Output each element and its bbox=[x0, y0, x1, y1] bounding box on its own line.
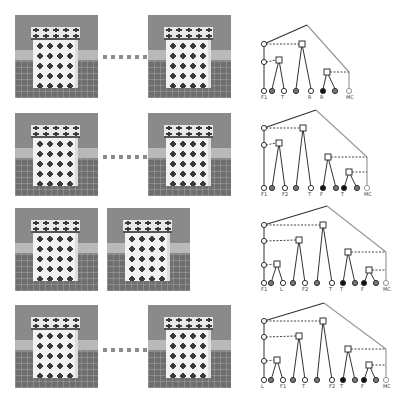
leaf-label: F1 bbox=[261, 191, 267, 197]
root-edge bbox=[264, 206, 327, 225]
edge bbox=[293, 336, 299, 380]
square-node bbox=[320, 318, 326, 324]
leaf-label: F bbox=[361, 286, 364, 292]
leaf-label: F1 bbox=[280, 383, 286, 389]
leaf-node bbox=[364, 185, 369, 190]
tree-row-4: LF1TF2TFMC bbox=[261, 303, 391, 389]
leaf-node bbox=[280, 280, 285, 285]
leaf-node bbox=[261, 88, 266, 93]
leaf-node bbox=[269, 185, 274, 190]
gray-edge bbox=[324, 303, 386, 349]
leaf-node bbox=[354, 185, 359, 190]
circle-node bbox=[261, 238, 266, 243]
leaf-label: T bbox=[307, 191, 312, 197]
leaf-node bbox=[293, 185, 298, 190]
leaf-label: T bbox=[280, 94, 285, 100]
tree-row-3: F1LF2TTFMC bbox=[261, 206, 391, 292]
leaf-node bbox=[268, 377, 273, 382]
square-node bbox=[345, 249, 351, 255]
leaf-label: L bbox=[261, 383, 264, 389]
leaf-node bbox=[281, 88, 286, 93]
leaf-node bbox=[373, 280, 378, 285]
square-node bbox=[296, 237, 302, 243]
edge bbox=[299, 336, 305, 380]
square-node bbox=[274, 357, 280, 363]
box-photo-row1-2 bbox=[148, 15, 231, 98]
dashed-link bbox=[266, 143, 276, 145]
square-node bbox=[276, 140, 282, 146]
leaf-label: MC bbox=[383, 286, 391, 292]
leaf-node bbox=[314, 377, 319, 382]
leaf-node bbox=[341, 185, 346, 190]
edge bbox=[302, 44, 311, 89]
edge bbox=[343, 349, 348, 380]
edge bbox=[303, 128, 311, 188]
leaf-node bbox=[352, 280, 357, 285]
square-node bbox=[276, 57, 282, 63]
edge bbox=[323, 157, 328, 188]
leaf-label: F bbox=[361, 383, 364, 389]
dashed-link bbox=[266, 360, 274, 361]
edge bbox=[296, 128, 303, 188]
circle-node bbox=[261, 59, 266, 64]
leaf-node bbox=[361, 377, 366, 382]
circle-node bbox=[261, 358, 266, 363]
circle-node bbox=[261, 125, 266, 130]
leaf-label: R bbox=[320, 94, 324, 100]
circle-node bbox=[261, 41, 266, 46]
leaf-label: F2 bbox=[302, 286, 308, 292]
edge bbox=[279, 143, 285, 188]
edge bbox=[348, 349, 355, 380]
leaf-node bbox=[290, 377, 295, 382]
edge bbox=[317, 321, 323, 380]
dashed-link bbox=[266, 336, 296, 337]
leaf-node bbox=[333, 185, 338, 190]
leaf-label: F2 bbox=[282, 191, 288, 197]
box-photo-row4-1 bbox=[15, 305, 98, 388]
leaf-node bbox=[340, 280, 345, 285]
leaf-node bbox=[302, 377, 307, 382]
leaf-node bbox=[282, 185, 287, 190]
gray-edge bbox=[316, 110, 367, 157]
dashed-link bbox=[266, 60, 276, 62]
circle-node bbox=[261, 222, 266, 227]
ellipsis-separator bbox=[103, 348, 147, 352]
square-node bbox=[324, 69, 330, 75]
leaf-node bbox=[261, 377, 266, 382]
leaf-node bbox=[280, 377, 285, 382]
edge bbox=[272, 60, 279, 89]
leaf-label: T bbox=[340, 191, 345, 197]
leaf-label: F1 bbox=[261, 94, 267, 100]
edge bbox=[272, 143, 279, 188]
root-edge bbox=[264, 303, 324, 321]
leaf-node bbox=[293, 88, 298, 93]
edge bbox=[317, 225, 323, 283]
leaf-label: MC bbox=[346, 94, 354, 100]
square-node bbox=[325, 154, 331, 160]
tree-row-2: F1F2TFTMC bbox=[261, 110, 372, 197]
square-node bbox=[346, 169, 352, 175]
box-photo-row3-1 bbox=[15, 208, 98, 291]
leaf-label: T bbox=[328, 286, 333, 292]
edge bbox=[293, 240, 299, 283]
square-node bbox=[296, 333, 302, 339]
leaf-node bbox=[320, 185, 325, 190]
leaf-node bbox=[302, 280, 307, 285]
leaf-node bbox=[320, 88, 325, 93]
tree-row-1: F1TRRMC bbox=[261, 25, 354, 100]
tree-diagrams: F1TRRMCF1F2TFTMCF1LF2TTFMCLF1TF2TFMC bbox=[250, 0, 407, 405]
leaf-node bbox=[261, 185, 266, 190]
leaf-node bbox=[261, 280, 266, 285]
leaf-label: R bbox=[308, 94, 312, 100]
leaf-node bbox=[383, 280, 388, 285]
square-node bbox=[320, 222, 326, 228]
square-node bbox=[345, 346, 351, 352]
dashed-link bbox=[266, 264, 274, 265]
leaf-label: T bbox=[301, 383, 306, 389]
edge bbox=[343, 252, 348, 283]
leaf-node bbox=[308, 185, 313, 190]
circle-node bbox=[261, 142, 266, 147]
edge bbox=[328, 157, 336, 188]
leaf-node bbox=[308, 88, 313, 93]
square-node bbox=[274, 261, 280, 267]
